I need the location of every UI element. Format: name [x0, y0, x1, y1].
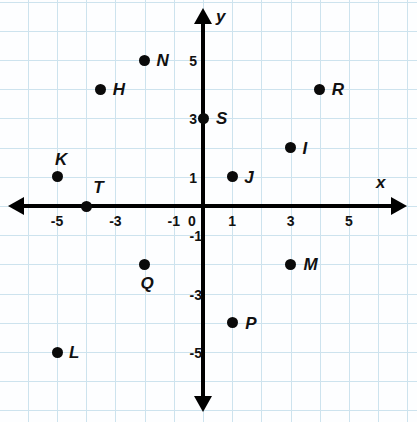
point-label-p: P	[245, 315, 256, 332]
gridline-horizontal	[0, 352, 417, 353]
point-dot-s[interactable]	[198, 113, 209, 124]
point-label-s: S	[216, 110, 227, 127]
coordinate-plane: x y -5-3-10135531-1-3-5 NHRSIKJTQMPL	[0, 0, 417, 422]
gridline-horizontal	[0, 148, 417, 149]
gridline-horizontal	[0, 294, 417, 295]
gridline-vertical	[320, 0, 321, 422]
point-dot-h[interactable]	[95, 84, 106, 95]
gridline-vertical	[28, 0, 29, 422]
point-dot-t[interactable]	[81, 201, 92, 212]
y-tick-label: -3	[176, 288, 202, 302]
y-tick-label: -1	[176, 229, 202, 243]
x-tick-label: 5	[336, 214, 362, 228]
point-dot-j[interactable]	[227, 171, 238, 182]
gridline-horizontal	[0, 177, 417, 178]
point-dot-l[interactable]	[52, 347, 63, 358]
point-label-r: R	[332, 81, 344, 98]
x-tick-label: 1	[219, 214, 245, 228]
x-axis-label: x	[376, 174, 385, 191]
gridline-vertical	[115, 0, 116, 422]
point-dot-r[interactable]	[314, 84, 325, 95]
y-tick-label: -5	[176, 346, 202, 360]
y-axis-down-arrow-icon	[194, 396, 212, 412]
gridline-horizontal	[0, 381, 417, 382]
point-label-q: Q	[141, 275, 154, 292]
point-label-j: J	[244, 169, 253, 186]
gridline-horizontal	[0, 31, 417, 32]
grid	[0, 0, 417, 422]
gridline-vertical	[378, 0, 379, 422]
x-tick-label: 3	[278, 214, 304, 228]
point-dot-k[interactable]	[52, 171, 63, 182]
gridline-vertical	[57, 0, 58, 422]
x-axis-right-arrow-icon	[391, 197, 407, 215]
point-label-n: N	[157, 52, 169, 69]
gridline-horizontal	[0, 2, 417, 3]
gridline-horizontal	[0, 264, 417, 265]
gridline-vertical	[349, 0, 350, 422]
point-label-i: I	[303, 140, 308, 157]
point-label-l: L	[69, 344, 79, 361]
gridline-horizontal	[0, 118, 417, 119]
gridline-horizontal	[0, 89, 417, 90]
gridline-vertical	[232, 0, 233, 422]
y-tick-label: 3	[171, 112, 197, 126]
y-tick-label: 5	[171, 54, 197, 68]
y-tick-label: 1	[171, 171, 197, 185]
point-label-k: K	[55, 151, 67, 168]
x-tick-label: 0	[179, 214, 205, 228]
point-dot-p[interactable]	[227, 317, 238, 328]
point-label-t: T	[93, 179, 103, 196]
point-label-h: H	[113, 81, 125, 98]
point-label-m: M	[304, 256, 318, 273]
x-tick-label: -5	[44, 214, 70, 228]
point-dot-q[interactable]	[139, 259, 150, 270]
x-axis	[22, 204, 393, 208]
point-dot-n[interactable]	[139, 55, 150, 66]
gridline-vertical	[407, 0, 408, 422]
gridline-horizontal	[0, 323, 417, 324]
gridline-horizontal	[0, 235, 417, 236]
x-axis-left-arrow-icon	[8, 197, 24, 215]
point-dot-m[interactable]	[285, 259, 296, 270]
gridline-vertical	[261, 0, 262, 422]
y-axis	[201, 22, 205, 396]
y-axis-label: y	[216, 8, 225, 25]
gridline-horizontal	[0, 60, 417, 61]
x-tick-label: -3	[102, 214, 128, 228]
y-axis-up-arrow-icon	[194, 8, 212, 24]
gridline-vertical	[291, 0, 292, 422]
